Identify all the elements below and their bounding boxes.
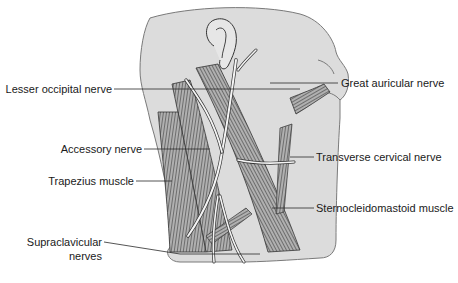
anatomy-figure: Lesser occipital nerve Great auricular n… [0, 0, 458, 283]
label-supraclavicular-nerves-line2: nerves [10, 250, 102, 263]
label-supraclavicular-nerves-line1: Supraclavicular [10, 236, 102, 249]
label-transverse-cervical-nerve: Transverse cervical nerve [316, 151, 442, 164]
label-lesser-occipital-nerve: Lesser occipital nerve [4, 83, 112, 96]
label-accessory-nerve: Accessory nerve [40, 143, 142, 156]
label-trapezius-muscle: Trapezius muscle [30, 175, 134, 188]
label-great-auricular-nerve: Great auricular nerve [341, 77, 444, 90]
label-sternocleidomastoid-muscle: Sternocleidomastoid muscle [316, 202, 454, 215]
